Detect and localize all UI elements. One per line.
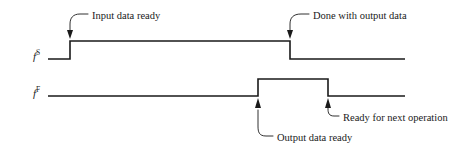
waveform-fs xyxy=(48,41,405,59)
timing-diagram: fS fF Input data ready Done with output … xyxy=(0,0,468,151)
arrowhead-input-data-ready xyxy=(67,30,73,39)
signal-label-ff: fF xyxy=(33,88,40,99)
annotation-done-with-output-data: Done with output data xyxy=(313,11,407,22)
arrowhead-done-with-output-data xyxy=(287,30,293,39)
arrowhead-ready-for-next-operation xyxy=(325,98,331,108)
arrowhead-output-data-ready xyxy=(255,98,261,108)
annotation-input-data-ready: Input data ready xyxy=(92,11,160,22)
signal-label-fs-superscript: S xyxy=(36,48,40,57)
timing-diagram-canvas xyxy=(0,0,468,151)
waveform-ff xyxy=(48,79,405,96)
signal-label-fs: fS xyxy=(33,51,40,62)
signal-label-ff-superscript: F xyxy=(36,85,40,94)
annotation-output-data-ready: Output data ready xyxy=(277,133,352,144)
annotation-ready-for-next-operation: Ready for next operation xyxy=(343,113,448,124)
leader-output-data-ready xyxy=(258,110,273,136)
